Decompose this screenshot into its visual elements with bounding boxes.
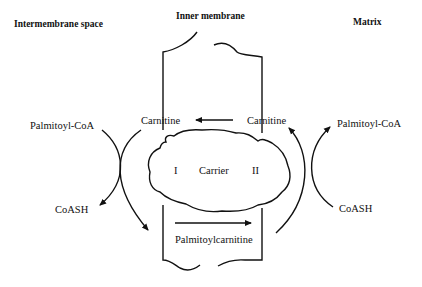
carrier-label: Carrier <box>199 165 229 176</box>
palmitoylcarnitine-label: Palmitoylcarnitine <box>175 234 253 245</box>
left-palmitoyl-coa-label: Palmitoyl-CoA <box>30 120 95 131</box>
header-inner-membrane: Inner membrane <box>176 11 245 21</box>
carnitine-left-label: Carnitine <box>141 115 180 126</box>
right-coash-to-palmitoyl-arrow <box>312 127 333 207</box>
carnitine-right-label: Carnitine <box>247 115 286 126</box>
carnitine-shuttle-diagram: Intermembrane space Inner membrane Matri… <box>0 0 422 287</box>
header-intermembrane-space: Intermembrane space <box>14 19 103 29</box>
site-two-label: II <box>252 165 259 176</box>
header-matrix: Matrix <box>353 17 382 27</box>
right-coash-label: CoASH <box>339 203 373 214</box>
left-coash-label: CoASH <box>55 204 89 215</box>
site-one-label: I <box>174 165 178 176</box>
right-palmitoylcarnitine-to-carnitine-arrow <box>276 128 305 233</box>
right-palmitoyl-coa-label: Palmitoyl-CoA <box>337 118 402 129</box>
left-palmitoyl-to-coash-arrow <box>100 130 121 205</box>
left-carnitine-to-palmitoylcarnitine-arrow <box>120 130 148 230</box>
